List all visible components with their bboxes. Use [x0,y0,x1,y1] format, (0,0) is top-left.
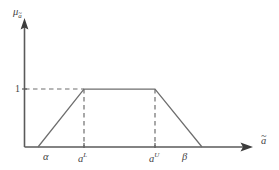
x-tick-label-a-lower: aL [78,152,87,164]
x-axis-label: ~a [261,136,266,147]
x-tick-label-beta-base: β [182,151,187,162]
x-tick-label-a-upper-sup: U [154,151,159,159]
x-tick-label-alpha: α [43,152,49,163]
membership-function-figure: μ~a ~a 1 α aL aU β [0,0,279,170]
plot-canvas [0,0,279,170]
x-axis-label-tilde: ~ [261,131,266,141]
trapezoid-membership-curve [38,89,202,147]
y-axis-label: μ~a [13,7,22,20]
x-tick-label-a-lower-sup: L [83,151,87,159]
y-axis-label-subscript: ~a [18,13,22,20]
x-tick-label-alpha-base: α [43,151,49,162]
x-axis-label-wrap: ~a [261,136,266,147]
y-axis-label-subscript-tilde: ~ [18,10,22,17]
x-tick-label-a-upper: aU [149,152,159,164]
y-tick-label-one: 1 [15,84,20,94]
x-tick-label-beta: β [182,152,187,163]
